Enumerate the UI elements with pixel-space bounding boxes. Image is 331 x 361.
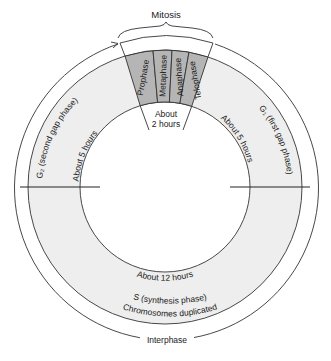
- phase-label-metaphase: Metaphase: [157, 54, 168, 97]
- cell-cycle-diagram: Mitosis Prophase Metaphase Anaphase Telo…: [0, 0, 331, 361]
- mitosis-duration-line2: 2 hours: [152, 119, 180, 129]
- mitosis-duration-line1: About: [155, 109, 178, 119]
- mitosis-title: Mitosis: [151, 9, 181, 20]
- interphase-label: Interphase: [147, 335, 187, 345]
